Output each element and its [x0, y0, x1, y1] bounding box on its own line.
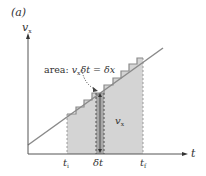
tick-t-initial-sub: i [67, 162, 69, 169]
tick-t-final: tf [140, 158, 146, 169]
tick-t-initial: ti [63, 158, 69, 169]
annotation-rest: δt = δx [80, 64, 115, 75]
y-axis-label-sub: x [28, 27, 31, 34]
panel-label: (a) [11, 7, 26, 18]
x-axis-label: t [191, 148, 195, 159]
area-annotation: area: vxδt = δx [44, 65, 115, 76]
strip-height-label: vx [115, 116, 124, 127]
tick-delta-t: δt [93, 158, 103, 168]
leader-arrowhead [93, 87, 98, 92]
tick-t-final-sub: f [144, 162, 146, 169]
annotation-prefix: area: [44, 64, 72, 75]
y-axis-label: vx [22, 22, 32, 34]
tick-delta-t-main: δt [93, 157, 103, 168]
strip-label-sub: x [121, 120, 124, 127]
x-axis-arrowhead [182, 152, 188, 156]
